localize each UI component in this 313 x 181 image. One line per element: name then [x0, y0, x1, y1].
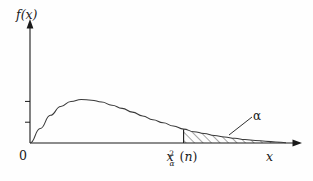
y-axis-label: f(x): [16, 9, 37, 22]
alpha-label: α: [253, 110, 261, 122]
chi-square-figure: f(x) 0 x α x2α(n): [0, 0, 313, 181]
crit-subscript: α: [169, 159, 174, 168]
alpha-leader-line: [229, 117, 252, 135]
density-curve: [30, 100, 286, 143]
y-axis-ticks: [25, 101, 30, 122]
density-curve-main: [30, 83, 180, 143]
x-axis-label: x: [266, 151, 273, 164]
y-axis: [27, 19, 34, 143]
origin-label: 0: [19, 150, 27, 163]
critical-value-label: x2α(n): [167, 150, 202, 166]
crit-close-paren: ): [192, 149, 197, 164]
crit-superscript: 2: [169, 149, 174, 158]
